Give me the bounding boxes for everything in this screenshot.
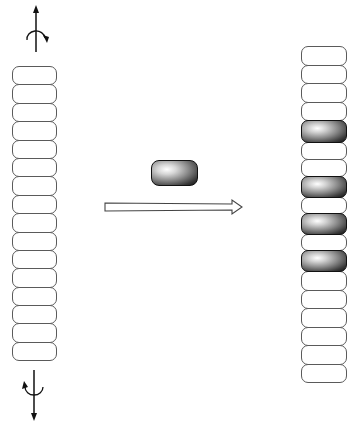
left-stack-block: [12, 232, 57, 251]
left-stack-block: [12, 250, 57, 269]
right-stack-block: [301, 46, 347, 66]
right-stack-block: [301, 159, 347, 177]
right-stack-block: [301, 102, 347, 122]
left-stack-block: [12, 66, 57, 85]
left-stack-block: [12, 287, 57, 306]
left-block-stack: [12, 66, 57, 360]
left-stack-block: [12, 121, 57, 140]
top-rotation-axis-icon: [20, 4, 60, 56]
left-stack-block: [12, 323, 57, 342]
right-stack-block: [301, 364, 347, 384]
left-stack-block: [12, 342, 57, 361]
right-stack-block: [301, 83, 347, 103]
left-stack-block: [12, 140, 57, 159]
right-stack-block: [301, 271, 347, 291]
bottom-rotation-axis-icon: [18, 368, 58, 424]
right-stack-block: [301, 142, 347, 160]
left-stack-block: [12, 213, 57, 232]
insert-block: [151, 160, 198, 186]
right-stack-block: [301, 234, 347, 251]
right-block-stack: [301, 46, 347, 382]
right-stack-block: [301, 345, 347, 365]
left-stack-block: [12, 84, 57, 103]
right-stack-dark-block: [301, 176, 347, 198]
right-stack-dark-block: [301, 213, 347, 235]
right-stack-dark-block: [301, 250, 347, 272]
left-stack-block: [12, 268, 57, 287]
right-stack-block: [301, 308, 347, 328]
right-stack-dark-block: [301, 120, 347, 143]
right-stack-block: [301, 65, 347, 85]
process-arrow-icon: [104, 199, 244, 215]
left-stack-block: [12, 195, 57, 214]
left-stack-block: [12, 305, 57, 324]
right-stack-block: [301, 290, 347, 310]
left-stack-block: [12, 176, 57, 195]
right-stack-block: [301, 327, 347, 347]
right-stack-block: [301, 197, 347, 214]
left-stack-block: [12, 103, 57, 122]
left-stack-block: [12, 158, 57, 177]
